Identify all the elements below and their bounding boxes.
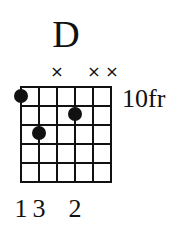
- base-fret-label: 10fr: [122, 85, 165, 113]
- finger-label-string-3: 2: [66, 195, 84, 223]
- finger-dot-string-6-fret-1: [14, 89, 28, 103]
- fret-line: [20, 181, 111, 183]
- fret-line: [20, 86, 111, 88]
- fretboard-grid: [20, 86, 111, 182]
- fret-line: [20, 162, 111, 164]
- finger-dot-string-3-fret-2: [68, 107, 82, 121]
- fret-line: [20, 143, 111, 145]
- string-line-4: [56, 86, 58, 183]
- fret-line: [20, 124, 111, 126]
- finger-label-string-6: 1: [12, 195, 30, 223]
- mute-marker-string-2: ×: [86, 64, 102, 80]
- string-line-3: [74, 86, 76, 183]
- chord-name: D: [0, 14, 132, 54]
- finger-dot-string-5-fret-3: [32, 126, 46, 140]
- string-line-2: [92, 86, 94, 183]
- fret-line: [20, 105, 111, 107]
- mute-marker-string-4: ×: [49, 64, 65, 80]
- mute-marker-string-1: ×: [104, 64, 120, 80]
- string-line-1: [110, 86, 112, 183]
- finger-label-string-5: 3: [30, 195, 48, 223]
